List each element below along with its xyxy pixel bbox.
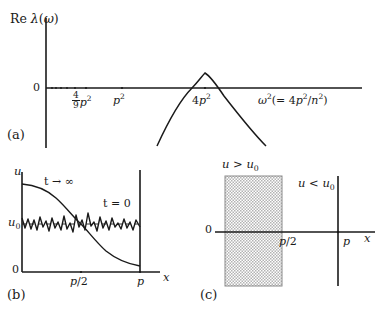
panel-a-x-axis-label: ω2(= 4p2/n2) [258,93,327,106]
panel-b-y-axis-label: u [14,166,21,178]
figure-root: Re λ(ω) 0 49p2 p2 4p2 ω2(= 4p2/n2) (a) [0,0,384,309]
panel-a-tick-label-4p2: 4p2 [192,93,211,106]
panel-c-region-label-less: u < u0 [298,178,335,192]
panel-b-curve-label-t-zero: t = 0 [103,198,131,209]
panel-a-tick-label-p2: p2 [113,93,125,106]
panel-b-curve-t-zero [22,213,140,232]
panel-c-tick-label-phalf: p/2 [279,236,297,247]
panel-c-tick-dot-p [337,231,339,233]
panel-c-region-u-greater [225,176,282,286]
panel-b-curve-label-t-infinity: t → ∞ [44,176,74,187]
panel-a-tick-dot-4p2 [204,87,206,89]
panel-a-tick-dot-4over9p2 [85,87,87,89]
panel-c-x-axis-label: x [364,233,371,245]
panel-a-origin-label: 0 [33,82,40,93]
panel-a-y-axis-label: Re λ(ω) [10,13,59,26]
panel-b-tag: (b) [7,288,25,301]
panel-b-plot [0,162,200,302]
panel-a-tag: (a) [7,128,25,141]
panel-c-region-label-greater: u > u0 [222,159,259,173]
panel-a: Re λ(ω) 0 49p2 p2 4p2 ω2(= 4p2/n2) (a) [0,0,384,152]
panel-a-dispersion-curve [157,73,266,146]
panel-a-tick-dot-p2 [121,87,123,89]
panel-b-x-axis-label: x [163,272,170,284]
panel-c-plot [195,162,384,302]
panel-b-tick-dot-p [139,271,141,273]
panel-c-origin-label: 0 [205,224,212,235]
panel-b-u0-label: u0 [8,217,20,231]
panel-a-tick-label-4over9p2: 49p2 [72,91,92,110]
panel-b-tick-label-p: p [137,276,144,287]
panel-c-tag: (c) [200,288,217,301]
panel-b-origin-label: 0 [12,264,19,275]
panel-b-tick-dot-phalf [80,271,82,273]
panel-b-tick-label-phalf: p/2 [70,276,88,287]
panel-c-tick-label-p: p [343,236,350,247]
